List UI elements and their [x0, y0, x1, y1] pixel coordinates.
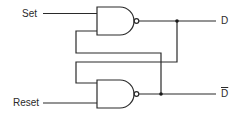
- nand-gate-bottom: [97, 80, 134, 108]
- nand-gate-top: [97, 7, 134, 35]
- inversion-bubble-top: [134, 19, 139, 24]
- set-label: Set: [22, 9, 37, 19]
- output-dbar-label: D: [221, 89, 228, 99]
- inversion-bubble-bottom: [134, 92, 139, 97]
- junction-dot-d: [175, 19, 179, 23]
- junction-dot-dbar: [159, 92, 163, 96]
- output-d-label: D: [221, 16, 228, 26]
- reset-label: Reset: [13, 98, 39, 108]
